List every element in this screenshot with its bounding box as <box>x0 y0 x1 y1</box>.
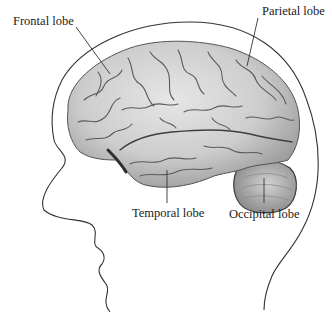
frontal-lobe-label: Frontal lobe <box>13 15 74 28</box>
parietal-lobe-label: Parietal lobe <box>262 5 325 18</box>
brain-diagram <box>0 0 332 317</box>
occipital-lobe-label: Occipital lobe <box>229 208 299 221</box>
temporal-lobe-label: Temporal lobe <box>132 207 204 220</box>
